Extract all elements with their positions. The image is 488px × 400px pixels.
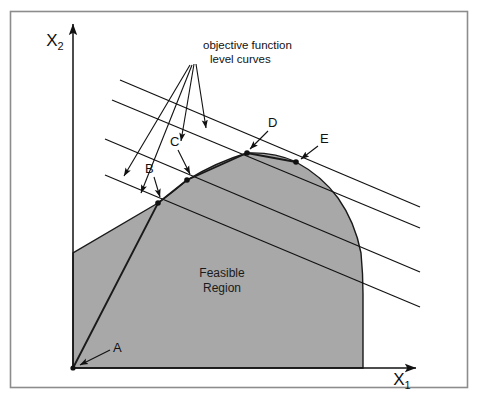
x-axis-label: X1	[393, 370, 410, 391]
point-marker-d	[244, 150, 250, 156]
point-label-b: B	[145, 161, 154, 176]
x-axis-label-text: X	[393, 370, 404, 389]
x-axis-subscript: 1	[405, 379, 411, 391]
objective-pointer-arrow-2	[196, 64, 206, 128]
y-axis-label: X2	[46, 31, 63, 52]
feasible-region-diagram: X2 X1 objective function level curves Fe…	[0, 0, 488, 400]
leader-arrow-b	[154, 177, 160, 197]
feasible-region-label-line-2: Region	[203, 281, 241, 295]
feasible-region-label-line-1: Feasible	[199, 266, 245, 280]
objective-annotation-line-2: level curves	[210, 53, 271, 65]
objective-annotation-line-1: objective function	[203, 39, 292, 51]
point-label-a: A	[113, 340, 122, 355]
figure-container: X2 X1 objective function level curves Fe…	[0, 0, 488, 400]
feasible-region-shape	[73, 153, 363, 368]
point-label-d: D	[268, 115, 277, 130]
point-label-e: E	[320, 131, 329, 146]
leader-arrow-d	[250, 131, 268, 149]
leader-arrow-e	[301, 146, 318, 159]
point-label-c: C	[170, 134, 179, 149]
y-axis-label-text: X	[46, 31, 57, 50]
objective-pointer-arrow-4	[124, 65, 190, 176]
point-marker-b	[155, 200, 161, 206]
point-marker-e	[293, 159, 299, 165]
y-axis-subscript: 2	[58, 40, 64, 52]
point-marker-c	[184, 177, 190, 183]
